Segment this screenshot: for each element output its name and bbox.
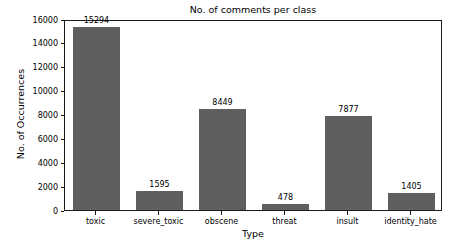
x-tick-mark — [221, 211, 222, 215]
bar-severe_toxic[interactable]: 1595 — [136, 21, 184, 210]
bar-threat[interactable]: 478 — [262, 21, 310, 210]
figure-canvas: No. of comments per class 15294159584494… — [0, 0, 459, 252]
x-tick-mark — [284, 211, 285, 215]
plot-area: 152941595844947878771405 — [64, 20, 442, 211]
y-tick-label: 0 — [53, 206, 58, 217]
x-tick-label: identity_hate — [351, 216, 459, 227]
y-tick-mark — [61, 163, 65, 164]
x-tick-mark — [158, 211, 159, 215]
y-tick-label: 6000 — [38, 134, 58, 145]
x-tick-mark — [95, 211, 96, 215]
bar-obscene[interactable]: 8449 — [199, 21, 247, 210]
bar-value-label: 1595 — [136, 180, 184, 190]
bar-rect — [325, 116, 373, 210]
y-tick-mark — [61, 91, 65, 92]
y-tick-label: 12000 — [33, 62, 58, 73]
y-tick-mark — [61, 115, 65, 116]
y-tick-label: 8000 — [38, 110, 58, 121]
y-tick-mark — [61, 187, 65, 188]
bar-rect — [73, 27, 121, 210]
bar-value-label: 8449 — [199, 98, 247, 108]
bar-value-label: 7877 — [325, 105, 373, 115]
chart-title: No. of comments per class — [64, 4, 442, 16]
y-tick-mark — [61, 67, 65, 68]
x-tick-mark — [410, 211, 411, 215]
bar-value-label: 1405 — [388, 182, 436, 192]
y-tick-label: 14000 — [33, 38, 58, 49]
bar-identity_hate[interactable]: 1405 — [388, 21, 436, 210]
y-tick-label: 10000 — [33, 86, 58, 97]
y-axis-label: No. of Occurrences — [15, 19, 27, 210]
bar-insult[interactable]: 7877 — [325, 21, 373, 210]
x-axis-label: Type — [64, 228, 442, 240]
bar-rect — [262, 204, 310, 210]
bar-rect — [136, 191, 184, 210]
bar-rect — [388, 193, 436, 210]
y-tick-label: 2000 — [38, 182, 58, 193]
x-tick-mark — [347, 211, 348, 215]
y-tick-mark — [61, 139, 65, 140]
bar-value-label: 15294 — [73, 16, 121, 26]
bar-toxic[interactable]: 15294 — [73, 21, 121, 210]
y-tick-label: 16000 — [33, 15, 58, 26]
y-tick-label: 4000 — [38, 158, 58, 169]
bars-layer: 152941595844947878771405 — [65, 21, 441, 210]
y-tick-mark — [61, 20, 65, 21]
bar-rect — [199, 109, 247, 210]
y-tick-mark — [61, 43, 65, 44]
bar-value-label: 478 — [262, 193, 310, 203]
